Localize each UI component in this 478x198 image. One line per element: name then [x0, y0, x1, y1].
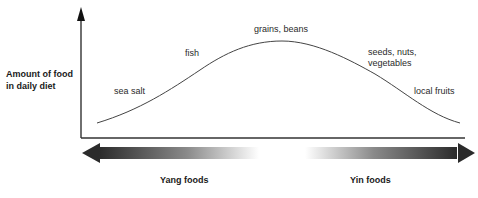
label-sea-salt: sea salt [114, 86, 145, 97]
y-axis-label-line2: in daily diet [6, 81, 56, 92]
yang-foods-label: Yang foods [160, 175, 209, 186]
yang-arrow [82, 143, 259, 163]
y-axis [77, 7, 85, 138]
label-local-fruits: local fruits [414, 86, 455, 97]
label-vegetables: vegetables [368, 58, 412, 69]
label-fish: fish [185, 48, 199, 59]
label-seeds-nuts: seeds, nuts, [368, 47, 417, 58]
right-arrowhead-icon [458, 143, 475, 163]
label-grains-beans: grains, beans [254, 24, 308, 35]
left-arrowhead-icon [82, 143, 100, 163]
diagram-canvas [0, 0, 478, 198]
y-axis-arrowhead-icon [77, 7, 85, 21]
yin-foods-label: Yin foods [350, 175, 391, 186]
yin-arrow [305, 143, 475, 163]
y-axis-label-line1: Amount of food [6, 69, 73, 80]
